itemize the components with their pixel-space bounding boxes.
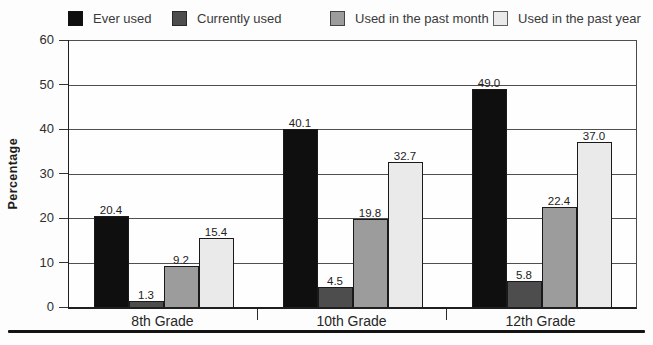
bottom-rule (8, 330, 645, 333)
bar-value-label: 37.0 (583, 130, 605, 142)
legend-item: Used in the past year (493, 8, 641, 28)
x-category-label: 10th Grade (257, 313, 446, 329)
y-tick-mark (59, 40, 68, 41)
plot-area: 20.41.39.215.440.14.519.832.749.05.822.4… (68, 40, 637, 309)
x-category-label: 12th Grade (446, 313, 635, 329)
bar-value-label: 9.2 (173, 254, 189, 266)
y-tick-label: 40 (14, 121, 54, 136)
bar-value-label: 22.4 (548, 195, 570, 207)
legend-swatch-icon (330, 11, 345, 26)
legend-label: Used in the past year (518, 11, 641, 26)
y-tick-mark (59, 218, 68, 219)
y-tick-label: 60 (14, 32, 54, 47)
bar-value-label: 40.1 (289, 117, 311, 129)
y-tick-mark (59, 129, 68, 130)
bar-group: 20.41.39.215.4 (69, 40, 258, 307)
y-tick-mark (59, 173, 68, 174)
bar-group: 40.14.519.832.7 (258, 40, 447, 307)
legend-swatch-icon (68, 11, 83, 26)
y-tick-mark (59, 84, 68, 85)
bar-value-label: 5.8 (516, 269, 532, 281)
bar: 32.7 (388, 162, 423, 308)
x-category-label: 8th Grade (68, 313, 257, 329)
bar: 37.0 (577, 142, 612, 307)
bar-value-label: 4.5 (327, 275, 343, 287)
bar: 4.5 (318, 287, 353, 307)
bar-group: 49.05.822.437.0 (447, 40, 636, 307)
legend: Ever usedCurrently usedUsed in the past … (0, 8, 653, 30)
bar: 1.3 (129, 301, 164, 307)
legend-item: Currently used (172, 8, 282, 28)
bar: 49.0 (472, 89, 507, 307)
y-tick-label: 20 (14, 210, 54, 225)
y-tick-label: 30 (14, 166, 54, 181)
bar: 9.2 (164, 266, 199, 307)
bar-value-label: 49.0 (478, 77, 500, 89)
grouped-bar-chart: Ever usedCurrently usedUsed in the past … (0, 0, 653, 345)
y-axis: 0102030405060 (0, 40, 68, 307)
bar: 20.4 (94, 216, 129, 307)
legend-swatch-icon (172, 11, 187, 26)
legend-label: Currently used (197, 11, 282, 26)
y-tick-mark (59, 262, 68, 263)
bar-value-label: 15.4 (205, 226, 227, 238)
legend-label: Used in the past month (355, 11, 489, 26)
bar: 19.8 (353, 219, 388, 307)
legend-label: Ever used (93, 11, 152, 26)
bar: 5.8 (507, 281, 542, 307)
legend-item: Used in the past month (330, 8, 489, 28)
bar-value-label: 32.7 (394, 150, 416, 162)
y-tick-label: 50 (14, 77, 54, 92)
bar: 15.4 (199, 238, 234, 307)
legend-swatch-icon (493, 11, 508, 26)
bar-value-label: 20.4 (100, 204, 122, 216)
legend-item: Ever used (68, 8, 152, 28)
bar: 40.1 (283, 129, 318, 307)
bar-value-label: 1.3 (138, 289, 154, 301)
bar-value-label: 19.8 (359, 207, 381, 219)
y-tick-label: 10 (14, 255, 54, 270)
bar: 22.4 (542, 207, 577, 307)
